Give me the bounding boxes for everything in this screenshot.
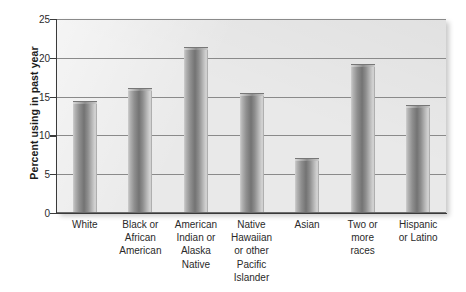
x-tick-label-2: AmericanIndian orAlaskaNative	[168, 218, 224, 271]
x-tick-label-line: Hispanic	[390, 218, 446, 231]
y-tick-mark-15	[50, 97, 57, 98]
y-axis-tick-labels: 0510152025	[22, 0, 50, 292]
bar-4[interactable]	[295, 158, 319, 213]
bar-2[interactable]	[184, 47, 208, 213]
plot-area	[57, 19, 446, 213]
x-tick-label-line: Two or	[335, 218, 391, 231]
y-tick-mark-5	[50, 174, 57, 175]
bar-3[interactable]	[240, 93, 264, 213]
x-tick-label-1: Black orAfricanAmerican	[113, 218, 169, 258]
y-tick-label-0: 0	[22, 208, 50, 219]
y-tick-label-15: 15	[22, 91, 50, 102]
bar-6[interactable]	[406, 105, 430, 213]
y-axis-line	[56, 19, 57, 214]
y-tick-label-10: 10	[22, 130, 50, 141]
x-tick-label-line: White	[57, 218, 113, 231]
y-tick-mark-25	[50, 19, 57, 20]
gridline-25	[57, 19, 446, 20]
y-tick-label-25: 25	[22, 14, 50, 25]
bar-1[interactable]	[128, 88, 152, 213]
x-tick-label-3: NativeHawaiianor otherPacificIslander	[224, 218, 280, 284]
x-tick-label-6: Hispanicor Latino	[390, 218, 446, 244]
x-tick-label-line: Asian	[279, 218, 335, 231]
x-tick-label-line: American	[113, 244, 169, 257]
x-tick-label-line: American	[168, 218, 224, 231]
bar-chart-figure: Percent using in past year 0510152025 Wh…	[0, 0, 466, 292]
x-tick-label-5: Two ormoreraces	[335, 218, 391, 258]
x-tick-label-line: Native	[168, 258, 224, 271]
x-tick-label-line: African	[113, 231, 169, 244]
x-axis-line	[56, 213, 447, 214]
x-tick-label-line: races	[335, 244, 391, 257]
x-tick-label-line: more	[335, 231, 391, 244]
x-tick-label-line: Islander	[224, 271, 280, 284]
x-tick-label-line: Indian or	[168, 231, 224, 244]
x-tick-label-4: Asian	[279, 218, 335, 231]
y-tick-label-20: 20	[22, 52, 50, 63]
x-tick-label-line: Alaska	[168, 244, 224, 257]
x-tick-label-0: White	[57, 218, 113, 231]
x-tick-label-line: or other	[224, 244, 280, 257]
y-tick-mark-10	[50, 135, 57, 136]
y-tick-label-5: 5	[22, 169, 50, 180]
bar-5[interactable]	[351, 64, 375, 213]
y-tick-mark-0	[50, 213, 57, 214]
x-tick-label-line: Pacific	[224, 258, 280, 271]
x-tick-label-line: Black or	[113, 218, 169, 231]
x-axis-tick-labels: WhiteBlack orAfricanAmericanAmericanIndi…	[57, 218, 446, 292]
x-tick-label-line: Native	[224, 218, 280, 231]
bar-0[interactable]	[73, 101, 97, 213]
x-tick-label-line: Hawaiian	[224, 231, 280, 244]
gridline-20	[57, 58, 446, 59]
y-tick-mark-20	[50, 58, 57, 59]
x-tick-label-line: or Latino	[390, 231, 446, 244]
